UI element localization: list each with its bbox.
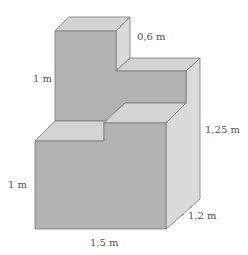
upper-step-top-face — [116, 58, 200, 71]
label-depth: 1,2 m — [188, 211, 217, 221]
label-lower-height: 1 m — [8, 180, 27, 190]
label-total-right-height: 1,25 m — [205, 125, 240, 135]
label-upper-height: 1 m — [33, 74, 52, 84]
figure-canvas: 0,6 m 1 m 1,25 m 1 m 1,2 m 1,5 m — [0, 0, 248, 255]
label-width: 1,5 m — [90, 238, 119, 248]
label-top-depth: 0,6 m — [137, 32, 166, 42]
left-step-top-face — [35, 121, 104, 141]
